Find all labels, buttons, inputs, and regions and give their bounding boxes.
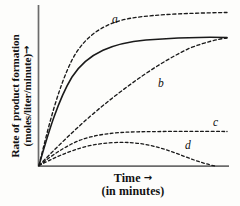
x-axis-title-line1: Time bbox=[114, 171, 141, 185]
x-axis-arrow-icon: → bbox=[144, 172, 152, 183]
curve-label-c: c bbox=[213, 117, 218, 129]
y-axis-title-line2: (moles/liter/minute) bbox=[21, 54, 33, 146]
y-axis-arrow-icon: → bbox=[22, 46, 32, 54]
x-axis-title-line2: (in minutes) bbox=[38, 185, 228, 198]
curve-label-d: d bbox=[185, 140, 191, 152]
y-axis-title: Rate of product formation (moles/liter/m… bbox=[7, 11, 37, 181]
y-axis-title-line2-wrap: (moles/liter/minute)→ bbox=[22, 46, 34, 147]
kinetics-chart: a b c d Rate of product formation (moles… bbox=[0, 0, 240, 206]
curve-label-a: a bbox=[112, 14, 118, 26]
curve-label-b: b bbox=[158, 78, 164, 90]
x-axis-title-line1-wrap: Time → bbox=[38, 172, 228, 185]
x-axis-title: Time → (in minutes) bbox=[38, 172, 228, 199]
